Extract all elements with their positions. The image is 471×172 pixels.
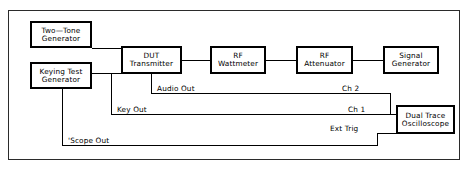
block-rf-attenuator[interactable]: RF Attenuator <box>296 46 353 74</box>
wire-ext-trig-to-scope <box>377 133 397 134</box>
block-dut-transmitter[interactable]: DUT Transmitter <box>121 46 182 74</box>
block-label-line2: Oscilloscope <box>402 120 449 128</box>
block-two-tone-generator[interactable]: Two—Tone Generator <box>30 21 92 48</box>
block-diagram-canvas: Audio Out Key Out 'Scope Out Ch 2 Ch 1 E… <box>0 0 471 172</box>
block-rf-wattmeter[interactable]: RF Wattmeter <box>210 46 266 74</box>
block-label-line2: Generator <box>392 60 430 68</box>
block-label-line2: Generator <box>42 76 80 84</box>
wire-scope-out-run <box>62 145 378 146</box>
label-key-out: Key Out <box>117 105 147 114</box>
wire-audio-out-drop <box>151 73 152 94</box>
block-label-line2: Attenuator <box>304 60 345 68</box>
wire-key-out-run <box>111 114 397 115</box>
wire-siggen-to-attenuator <box>352 60 384 61</box>
wire-key-out-drop <box>111 73 112 115</box>
wire-dut-to-wattmeter <box>181 60 211 61</box>
label-ext-trig: Ext Trig <box>330 124 358 133</box>
label-ch-2: Ch 2 <box>342 84 359 93</box>
label-audio-out: Audio Out <box>157 84 195 93</box>
block-dual-trace-oscilloscope[interactable]: Dual Trace Oscilloscope <box>396 105 455 134</box>
block-signal-generator[interactable]: Signal Generator <box>383 46 439 74</box>
wire-twotone-to-dut <box>92 48 122 49</box>
wire-keying-to-dut <box>92 73 122 74</box>
wire-ch2-drop-to-scope <box>390 93 391 114</box>
wire-ext-trig-rise <box>377 133 378 146</box>
wire-audio-out-run <box>151 93 391 94</box>
block-label-line2: Wattmeter <box>218 60 258 68</box>
label-scope-out: 'Scope Out <box>68 136 109 145</box>
block-label-line2: Generator <box>42 35 80 43</box>
block-keying-test-generator[interactable]: Keying Test Generator <box>30 62 92 89</box>
label-ch-1: Ch 1 <box>348 105 365 114</box>
wire-wattmeter-to-attenuator <box>265 60 297 61</box>
wire-scope-out-drop <box>62 88 63 146</box>
block-label-line2: Transmitter <box>130 60 173 68</box>
